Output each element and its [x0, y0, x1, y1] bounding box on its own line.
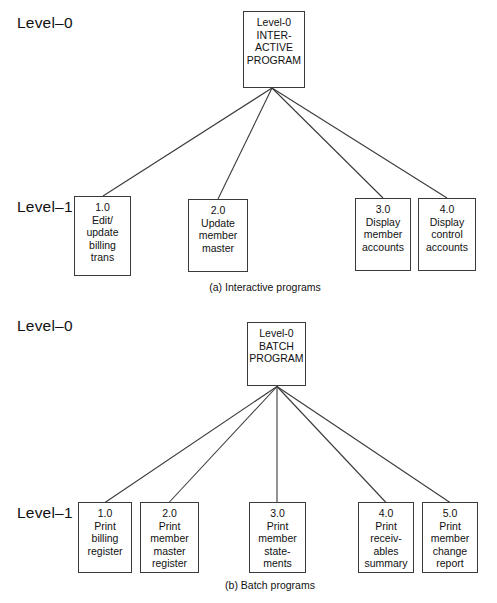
node-1-0-print-billing-register: 1.0Printbillingregister	[78, 502, 132, 573]
node-text-line-2: member	[431, 532, 470, 545]
node-text-line-4: ments	[263, 557, 292, 570]
node-4-0-display-control-accounts: 4.0Displaycontrolaccounts	[418, 198, 476, 271]
node-text-line-4: trans	[91, 251, 114, 264]
node-text-line-4: register	[152, 557, 187, 570]
edge-root-to-node-2	[169, 387, 277, 503]
diagram-batch-programs: Level–0 Level–1 Level-0BATCHPROGRAM 1.0P…	[0, 302, 497, 603]
edge-root-to-node-5	[277, 387, 450, 503]
node-text-line-0: 5.0	[443, 507, 458, 520]
node-text-line-3: accounts	[362, 241, 404, 254]
node-text-line-0: 1.0	[98, 507, 113, 520]
node-text-line-2: member	[258, 532, 297, 545]
node-2-0-print-member-master-register: 2.0Printmembermasterregister	[140, 502, 199, 573]
root-text-line-0: Level-0	[259, 327, 293, 340]
node-text-line-2: billing	[92, 532, 119, 545]
node-level0-interactive-program: Level-0INTER-ACTIVEPROGRAM	[243, 11, 305, 88]
node-text-line-0: 2.0	[162, 507, 177, 520]
root-text-line-2: ACTIVE	[255, 41, 293, 54]
root-text-line-1: BATCH	[259, 340, 294, 353]
level-1-label-interactive: Level–1	[17, 198, 73, 216]
node-text-line-0: 4.0	[440, 203, 455, 216]
node-3-0-display-member-accounts: 3.0Displaymemberaccounts	[355, 198, 411, 271]
node-level0-batch-program: Level-0BATCHPROGRAM	[247, 322, 306, 386]
node-text-line-2: member	[150, 532, 189, 545]
node-text-line-1: Print	[94, 520, 116, 533]
node-3-0-print-member-statements: 3.0Printmemberstate-ments	[249, 502, 306, 573]
node-text-line-1: Print	[267, 520, 289, 533]
node-text-line-0: 3.0	[270, 507, 285, 520]
node-text-line-0: 2.0	[211, 204, 226, 217]
node-text-line-3: state-	[264, 545, 290, 558]
edge-root-to-node-4	[277, 387, 386, 503]
node-text-line-1: Display	[366, 216, 400, 229]
caption-batch-programs: (b) Batch programs	[225, 579, 315, 591]
node-text-line-2: update	[86, 226, 118, 239]
node-text-line-2: receiv-	[370, 532, 402, 545]
node-text-line-3: master	[202, 242, 234, 255]
node-text-line-2: member	[364, 228, 403, 241]
root-text-line-1: INTER-	[257, 29, 292, 42]
root-text-line-0: Level-0	[257, 16, 291, 29]
node-text-line-0: 1.0	[95, 201, 110, 214]
node-5-0-print-member-change-report: 5.0Printmemberchangereport	[422, 502, 478, 573]
node-text-line-1: Display	[430, 216, 464, 229]
edge-root-to-node-1	[105, 387, 277, 503]
node-text-line-3: billing	[89, 239, 116, 252]
edge-root-to-node-4	[272, 88, 447, 198]
level-1-label-batch: Level–1	[17, 504, 73, 522]
node-text-line-4: summary	[364, 557, 407, 570]
diagram-interactive-programs: Level–0 Level–1 Level-0INTER-ACTIVEPROGR…	[0, 0, 497, 302]
node-text-line-0: 4.0	[379, 507, 394, 520]
node-text-line-3: change	[433, 545, 467, 558]
edge-root-to-node-1	[103, 88, 272, 196]
node-text-line-1: Print	[159, 520, 181, 533]
node-text-line-1: Edit/	[92, 214, 113, 227]
node-text-line-1: Print	[439, 520, 461, 533]
node-text-line-2: control	[431, 228, 463, 241]
node-text-line-1: Update	[201, 217, 235, 230]
node-text-line-3: register	[87, 545, 122, 558]
edge-root-to-node-3	[272, 88, 383, 198]
caption-interactive-programs: (a) Interactive programs	[209, 281, 320, 293]
node-text-line-3: ables	[373, 545, 398, 558]
node-text-line-2: member	[199, 229, 238, 242]
root-text-line-2: PROGRAM	[249, 352, 303, 365]
node-4-0-print-receivables-summary: 4.0Printreceiv-ablessummary	[358, 502, 414, 573]
node-text-line-4: report	[436, 557, 463, 570]
root-text-line-3: PROGRAM	[247, 54, 301, 67]
node-text-line-0: 3.0	[376, 203, 391, 216]
edge-root-to-node-2	[218, 88, 272, 199]
node-text-line-1: Print	[375, 520, 397, 533]
level-0-label-batch: Level–0	[17, 317, 73, 335]
node-1-0-edit-update-billing-trans: 1.0Edit/updatebillingtrans	[74, 196, 131, 276]
node-text-line-3: accounts	[426, 241, 468, 254]
node-2-0-update-member-master: 2.0Updatemembermaster	[188, 199, 248, 272]
level-0-label-interactive: Level–0	[17, 14, 73, 32]
node-text-line-3: master	[153, 545, 185, 558]
